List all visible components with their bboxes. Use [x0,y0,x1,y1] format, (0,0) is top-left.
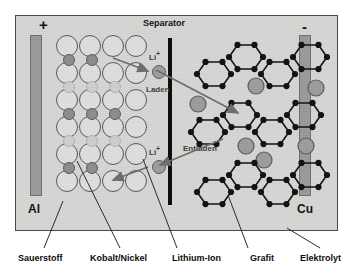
carbon-ring [293,45,327,69]
carbon-atom [266,59,272,65]
carbon-atom [292,100,298,106]
carbon-atom [266,83,272,89]
carbon-ring [261,180,295,204]
carbon-atom [219,59,225,65]
carbon-atom [228,189,234,195]
oxygen-atom [125,62,147,84]
carbon-atom [194,189,200,195]
carbon-atom [202,201,208,207]
carbon-atom [277,117,283,123]
carbon-atom [283,83,289,89]
carbon-atom [251,66,257,72]
charge-process-label: Laden [146,85,170,94]
intercalated-lithium-ion [238,138,254,154]
cobalt-nickel-atom [109,108,121,120]
carbon-atom [220,112,226,118]
lithium-ion-discharge [152,160,166,174]
carbon-atom [226,172,232,178]
carbon-atom [228,100,234,106]
lithium-vacancy-site [86,81,98,93]
carbon-atom [258,71,264,77]
carbon-ring [229,45,263,69]
carbon-atom [277,141,283,147]
carbon-atom [260,54,266,60]
oxygen-atom [102,35,124,57]
carbon-atom [252,129,258,135]
carbon-atom [251,42,257,48]
carbon-atom [213,117,219,123]
separator-label: Separator [143,18,185,28]
carbon-ring [261,62,295,86]
carbon-atom [202,59,208,65]
lithium-vacancy-site [109,81,121,93]
oxygen-atom [125,170,147,192]
graphite-sheet [194,38,329,100]
lithium-vacancy-site [63,135,75,147]
carbon-atom [298,66,304,72]
intercalated-lithium-ion [248,78,264,94]
carbon-ring [197,180,231,204]
carbon-atom [315,42,321,48]
carbon-atom [254,112,260,118]
carbon-atom [298,42,304,48]
li-ion-label-top: Li+ [149,50,160,62]
separator-membrane [168,38,172,205]
oxygen-atom [102,170,124,192]
legend-label-elektrolyt: Elektrolyt [300,253,341,263]
diagram-canvas: + - Al Cu Separator Li+ Li+ Laden Entlad… [0,0,353,276]
carbon-atom [251,160,257,166]
carbon-atom [260,141,266,147]
lithium-vacancy-site [109,135,121,147]
leader-electrolyte [287,228,320,248]
carbon-atom [226,54,232,60]
carbon-atom [188,129,194,135]
oxygen-atom [125,116,147,138]
cobalt-nickel-atom [86,162,98,174]
carbon-atom [309,124,315,130]
legend-label-lithium-ion: Lithium-Ion [172,253,221,263]
oxygen-atom [125,89,147,111]
lithium-vacancy-site [86,135,98,147]
carbon-atom [234,66,240,72]
carbon-atom [290,54,296,60]
carbon-atom [290,172,296,178]
carbon-atom [315,66,321,72]
carbon-atom [266,177,272,183]
carbon-atom [219,201,225,207]
carbon-atom [284,112,290,118]
carbon-atom [258,189,264,195]
cobalt-nickel-atom [63,108,75,120]
aluminium-current-collector [30,35,42,196]
carbon-atom [286,129,292,135]
intercalated-lithium-ion [298,138,314,154]
positive-polarity-label: + [39,19,48,31]
carbon-atom [234,160,240,166]
carbon-atom [324,172,330,178]
carbon-atom [260,117,266,123]
carbon-atom [245,124,251,130]
oxygen-atom [125,143,147,165]
carbon-ring [229,163,263,187]
carbon-ring [255,120,289,144]
carbon-ring [287,103,321,127]
carbon-atom [228,71,234,77]
cobalt-nickel-atom [86,108,98,120]
cobalt-nickel-atom [63,54,75,66]
carbon-ring [197,62,231,86]
carbon-atom [292,189,298,195]
carbon-atom [315,184,321,190]
carbon-atom [283,59,289,65]
carbon-atom [194,71,200,77]
carbon-atom [266,201,272,207]
battery-cell-body: + - Al Cu Separator Li+ Li+ Laden Entlad… [15,15,338,231]
carbon-atom [309,100,315,106]
graphite-sheet [194,156,329,218]
carbon-atom [245,100,251,106]
lithium-vacancy-site [63,81,75,93]
carbon-atom [222,129,228,135]
carbon-atom [202,177,208,183]
carbon-atom [202,83,208,89]
carbon-atom [228,124,234,130]
negative-polarity-label: - [302,21,307,33]
oxygen-atom [125,35,147,57]
